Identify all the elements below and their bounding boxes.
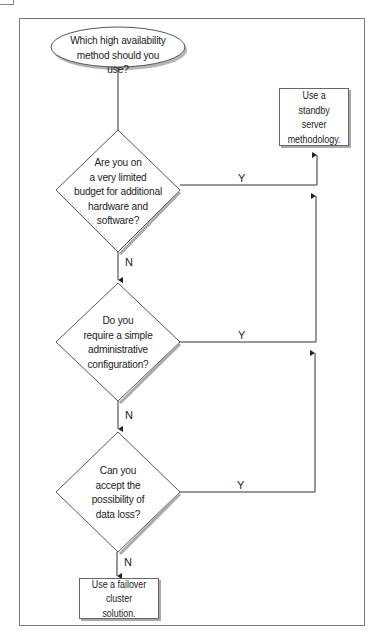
decision-text-line: accept the — [65, 478, 171, 493]
no-label-simple-admin: N — [125, 409, 133, 421]
decision-text-line: hardware and — [65, 199, 171, 214]
decision-text-line: possibility of — [65, 492, 171, 507]
yes-label-budget: Y — [238, 172, 245, 184]
decision-text-line: configuration? — [65, 357, 171, 372]
outcome-text-line: Use a failover — [89, 577, 149, 592]
decision-text-line: software? — [65, 213, 171, 228]
decision-text-line: require a simple — [65, 328, 171, 343]
decision-text-line: budget for additional — [65, 184, 171, 199]
decision-simple-admin-label: Do you require a simple administrative c… — [65, 313, 171, 371]
start-label-line: Which high availability — [65, 33, 171, 48]
decision-text-line: data loss? — [65, 507, 171, 522]
decision-text-line: administrative — [65, 342, 171, 357]
outcome-text-line: Use a standby — [288, 88, 341, 117]
no-label-data-loss: N — [124, 556, 132, 568]
decision-text-line: Can you — [65, 463, 171, 478]
outcome-standby-box: Use a standby server methodology. — [279, 88, 349, 146]
no-label-budget: N — [125, 256, 133, 268]
outcome-failover-label: Use a failover cluster solution. — [85, 577, 154, 621]
yes-label-data-loss: Y — [237, 479, 244, 491]
decision-text-line: Do you — [65, 313, 171, 328]
outcome-standby-label: Use a standby server methodology. — [284, 88, 344, 146]
yes-label-simple-admin: Y — [238, 329, 245, 341]
outcome-text-line: server — [288, 117, 341, 132]
outcome-text-line: methodology. — [288, 132, 341, 147]
outcome-text-line: cluster solution. — [89, 591, 149, 620]
start-label-line: method should you use? — [65, 48, 171, 77]
decision-text-line: Are you on — [65, 155, 171, 170]
start-label: Which high availability method should yo… — [65, 33, 171, 77]
decision-budget-label: Are you on a very limited budget for add… — [65, 155, 171, 228]
decision-data-loss-label: Can you accept the possibility of data l… — [65, 463, 171, 521]
decision-text-line: a very limited — [65, 170, 171, 185]
outcome-failover-box: Use a failover cluster solution. — [79, 578, 159, 619]
